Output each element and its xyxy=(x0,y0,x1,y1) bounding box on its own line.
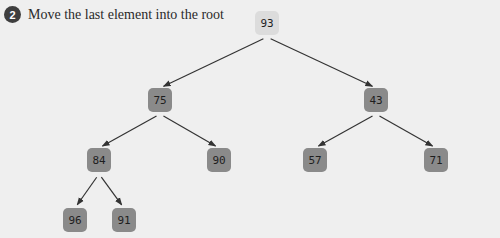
tree-node: 84 xyxy=(87,148,111,172)
tree-edge-arrow xyxy=(101,177,121,205)
tree-edge-arrow xyxy=(102,116,156,146)
tree-node-root: 93 xyxy=(255,11,279,35)
tree-edge-arrow xyxy=(271,39,373,87)
tree-edge-arrow xyxy=(163,116,215,146)
tree-node: 75 xyxy=(148,88,172,112)
tree-node: 90 xyxy=(207,148,231,172)
tree-node: 43 xyxy=(364,88,388,112)
tree-edge-arrow xyxy=(318,116,372,146)
tree-edge-arrow xyxy=(77,177,96,204)
tree-node: 96 xyxy=(63,208,87,232)
tree-node: 71 xyxy=(424,148,448,172)
tree-node: 91 xyxy=(112,208,136,232)
tree-node: 57 xyxy=(303,148,327,172)
tree-edge-arrow xyxy=(164,39,264,87)
tree-edges xyxy=(0,0,500,238)
tree-edge-arrow xyxy=(379,116,432,146)
